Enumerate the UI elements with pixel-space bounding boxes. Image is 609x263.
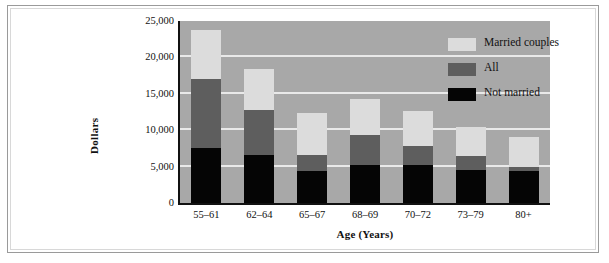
x-axis-tick-label: 62–64 <box>229 209 289 220</box>
bar-segment-married-couples <box>509 137 539 167</box>
legend-item: All <box>448 61 608 80</box>
bar-segment-not-married <box>509 171 539 203</box>
x-axis-tick-label: 65–67 <box>282 209 342 220</box>
y-axis-tick-label: 5,000 <box>112 162 174 172</box>
x-axis-tick-label: 70–72 <box>388 209 448 220</box>
legend-item: Not married <box>448 86 608 105</box>
bar-segment-all <box>297 155 327 171</box>
bar-segment-married-couples <box>403 111 433 145</box>
bar-segment-not-married <box>297 171 327 203</box>
x-axis-tick-label: 68–69 <box>335 209 395 220</box>
bar-column <box>244 69 274 203</box>
bar-column <box>403 111 433 203</box>
x-axis-tick-label: 73–79 <box>441 209 501 220</box>
bar-segment-not-married <box>456 170 486 203</box>
bar-segment-all <box>403 146 433 166</box>
y-axis-tick-labels: 05,00010,00015,00020,00025,000 <box>108 21 174 203</box>
y-axis-tick-label: 0 <box>112 198 174 208</box>
legend-swatch <box>448 63 476 76</box>
bar-segment-not-married <box>403 165 433 203</box>
bar-segment-all <box>244 110 274 155</box>
bar-column <box>509 137 539 203</box>
y-axis-tick-label: 15,000 <box>112 89 174 99</box>
bar-segment-not-married <box>191 148 221 203</box>
y-axis-tick-label: 10,000 <box>112 125 174 135</box>
legend-swatch <box>448 38 476 51</box>
bar-segment-married-couples <box>297 113 327 155</box>
bar-segment-all <box>350 135 380 166</box>
legend-label: Married couples <box>484 36 559 48</box>
x-axis-tick-labels: 55–6162–6465–6768–6970–7273–7980+ <box>180 209 550 225</box>
bar-segment-married-couples <box>456 127 486 157</box>
bar-segment-all <box>456 156 486 170</box>
bar-segment-not-married <box>350 165 380 203</box>
bar-segment-married-couples <box>350 99 380 135</box>
bar-segment-married-couples <box>191 30 221 79</box>
legend-swatch <box>448 88 476 101</box>
figure-container: Dollars 05,00010,00015,00020,00025,000 5… <box>0 0 609 263</box>
x-axis-tick-label: 80+ <box>494 209 554 220</box>
legend-item: Married couples <box>448 36 608 55</box>
chart-legend: Married couplesAllNot married <box>448 36 608 111</box>
y-axis-tick-label: 20,000 <box>112 52 174 62</box>
bar-segment-all <box>191 79 221 148</box>
legend-label: All <box>484 61 499 73</box>
x-axis-tick-label: 55–61 <box>176 209 236 220</box>
bar-column <box>456 127 486 203</box>
bar-column <box>350 99 380 203</box>
legend-label: Not married <box>484 86 540 98</box>
bar-segment-not-married <box>244 155 274 203</box>
bar-segment-married-couples <box>244 69 274 110</box>
bar-column <box>191 30 221 203</box>
bar-column <box>297 113 327 203</box>
x-axis-title: Age (Years) <box>180 228 550 240</box>
y-axis-tick-label: 25,000 <box>112 16 174 26</box>
y-axis-title: Dollars <box>88 118 100 154</box>
